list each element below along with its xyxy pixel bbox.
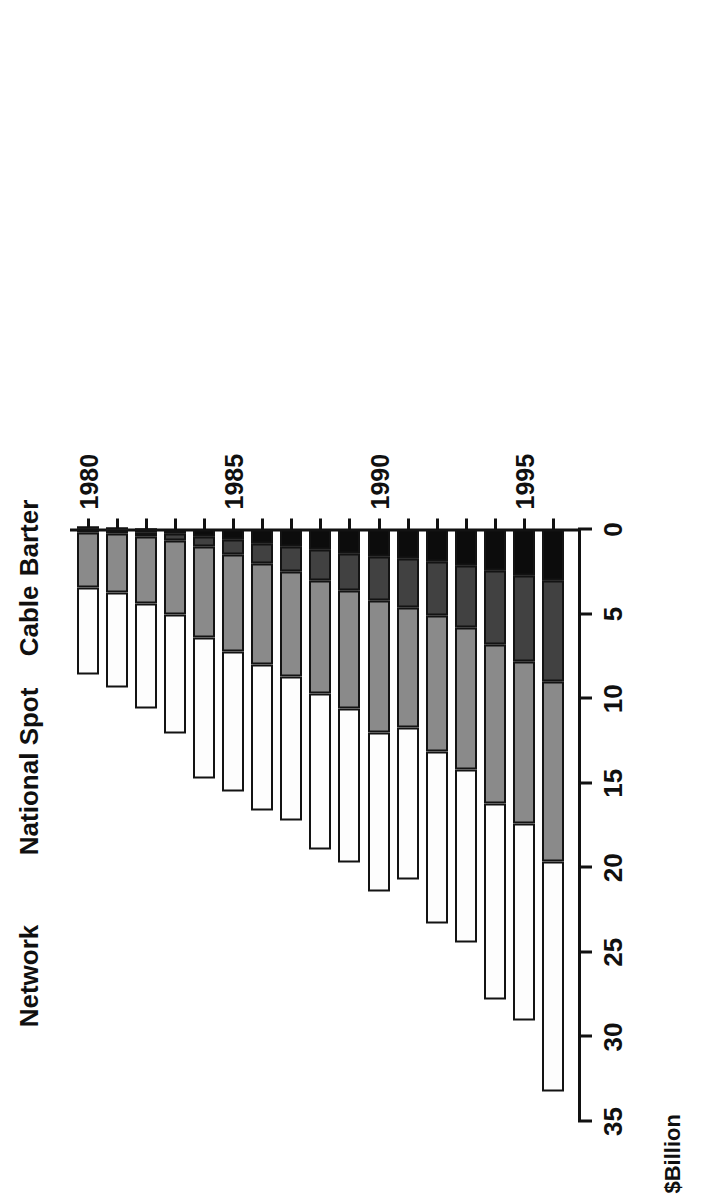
bar-segment-cable bbox=[251, 543, 273, 563]
bar-segment-spot bbox=[338, 590, 360, 708]
value-tick bbox=[578, 1034, 592, 1037]
bar-segment-network bbox=[193, 637, 215, 777]
value-tick-label: 15 bbox=[598, 753, 629, 813]
value-tick bbox=[578, 612, 592, 615]
chart-plot-area: 05101520253035 $Billion 1980198519901995… bbox=[0, 0, 718, 1199]
chart-canvas: 05101520253035 $Billion 1980198519901995… bbox=[0, 0, 718, 1199]
bar-segment-barter bbox=[135, 528, 157, 532]
bar-segment-cable bbox=[542, 580, 564, 681]
bar-segment-spot bbox=[513, 661, 535, 823]
bar-segment-barter bbox=[542, 529, 564, 580]
bar-segment-cable bbox=[455, 565, 477, 628]
bar-row bbox=[338, 0, 360, 1199]
bar-segment-network bbox=[222, 651, 244, 791]
bar-segment-spot bbox=[164, 540, 186, 614]
bar-segment-barter bbox=[484, 529, 506, 570]
bar-segment-spot bbox=[77, 532, 99, 588]
bar-segment-network bbox=[77, 587, 99, 673]
value-tick-label: 30 bbox=[598, 1006, 629, 1066]
bar-segment-spot bbox=[455, 627, 477, 769]
bar-segment-spot bbox=[251, 563, 273, 664]
bar-segment-network bbox=[251, 664, 273, 809]
bar-segment-cable bbox=[368, 556, 390, 600]
bar-segment-network bbox=[338, 708, 360, 862]
bar-segment-cable bbox=[397, 558, 419, 607]
bar-segment-cable bbox=[280, 546, 302, 571]
bar-segment-barter bbox=[193, 529, 215, 536]
bar-segment-cable bbox=[164, 533, 186, 540]
bar-row bbox=[193, 0, 215, 1199]
series-label-cable: Cable bbox=[14, 585, 45, 656]
bar-segment-spot bbox=[309, 580, 331, 693]
value-tick-label: 25 bbox=[598, 922, 629, 982]
bar-segment-barter bbox=[368, 529, 390, 556]
bar-segment-barter bbox=[455, 529, 477, 565]
series-label-network: Network bbox=[14, 924, 45, 1027]
value-axis-line bbox=[578, 529, 581, 1121]
value-tick-label: 5 bbox=[598, 584, 629, 644]
bar-segment-cable bbox=[135, 532, 157, 536]
bar-segment-network bbox=[455, 769, 477, 942]
bar-row bbox=[513, 0, 535, 1199]
bar-segment-cable bbox=[106, 529, 128, 533]
value-tick bbox=[578, 696, 592, 699]
bar-segment-spot bbox=[280, 571, 302, 676]
axis-title: $Billion bbox=[660, 1114, 686, 1193]
bar-segment-spot bbox=[484, 644, 506, 803]
bar-segment-network bbox=[542, 861, 564, 1091]
bar-row bbox=[455, 0, 477, 1199]
bar-segment-barter bbox=[222, 529, 244, 539]
bar-row bbox=[309, 0, 331, 1199]
value-tick bbox=[578, 781, 592, 784]
bar-segment-network bbox=[106, 592, 128, 687]
bar-row bbox=[135, 0, 157, 1199]
bar-row bbox=[542, 0, 564, 1199]
bar-segment-network bbox=[280, 676, 302, 820]
bar-segment-cable bbox=[309, 549, 331, 579]
bar-row bbox=[368, 0, 390, 1199]
bar-row bbox=[251, 0, 273, 1199]
bar-row bbox=[397, 0, 419, 1199]
bar-segment-spot bbox=[222, 554, 244, 650]
bar-segment-cable bbox=[513, 575, 535, 661]
value-tick bbox=[578, 865, 592, 868]
value-tick bbox=[578, 950, 592, 953]
bar-segment-network bbox=[513, 823, 535, 1019]
bar-row bbox=[77, 0, 99, 1199]
bar-segment-spot bbox=[426, 615, 448, 750]
bar-segment-cable bbox=[77, 528, 99, 532]
bar-segment-cable bbox=[338, 553, 360, 590]
bar-segment-spot bbox=[542, 681, 564, 860]
bar-row bbox=[484, 0, 506, 1199]
value-tick-label: 10 bbox=[598, 668, 629, 728]
bar-segment-barter bbox=[280, 529, 302, 546]
bar-row bbox=[426, 0, 448, 1199]
bar-segment-spot bbox=[135, 536, 157, 604]
value-tick-label: 35 bbox=[598, 1091, 629, 1151]
bar-segment-cable bbox=[484, 570, 506, 644]
bar-segment-network bbox=[426, 751, 448, 924]
bar-segment-network bbox=[135, 603, 157, 708]
bar-segment-barter bbox=[426, 529, 448, 561]
bar-segment-barter bbox=[251, 529, 273, 543]
bar-segment-network bbox=[484, 803, 506, 999]
series-label-barter: Barter bbox=[14, 499, 45, 576]
bar-segment-spot bbox=[368, 600, 390, 732]
value-tick-label: 0 bbox=[598, 499, 629, 559]
series-label-spot: National Spot bbox=[14, 687, 45, 855]
bar-segment-cable bbox=[222, 539, 244, 554]
bar-segment-spot bbox=[106, 533, 128, 592]
value-tick bbox=[578, 1119, 592, 1122]
bar-row bbox=[222, 0, 244, 1199]
value-tick-label: 20 bbox=[598, 837, 629, 897]
bar-segment-network bbox=[164, 614, 186, 732]
bar-segment-network bbox=[397, 727, 419, 879]
bar-segment-network bbox=[309, 693, 331, 849]
bar-segment-spot bbox=[397, 607, 419, 727]
bar-segment-cable bbox=[193, 536, 215, 546]
bar-segment-barter bbox=[513, 529, 535, 575]
bar-row bbox=[106, 0, 128, 1199]
bar-row bbox=[164, 0, 186, 1199]
bar-segment-barter bbox=[309, 529, 331, 549]
bar-segment-barter bbox=[338, 529, 360, 553]
